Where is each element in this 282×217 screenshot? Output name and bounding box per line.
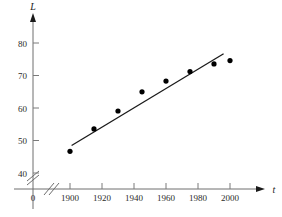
scatter-plot: 80 70 60 50 40 1900 1920 1940 1960 1980 … [0,0,282,217]
x-tick-label-1940: 1940 [125,193,144,203]
y-axis-arrow-icon [30,13,36,22]
x-axis-arrow-icon [256,186,265,192]
data-point [227,58,232,63]
x-tick-label-1960: 1960 [157,193,176,203]
data-point-group [67,58,232,154]
origin-label: 0 [31,193,36,203]
x-tick-label-2000: 2000 [221,193,240,203]
data-point [139,89,144,94]
data-point [211,61,216,66]
data-point [115,108,120,113]
y-axis-ticks [33,43,39,173]
y-tick-label-80: 80 [18,39,28,49]
y-tick-label-40: 40 [18,169,28,179]
x-tick-label-1920: 1920 [93,193,112,203]
data-point [187,69,192,74]
x-tick-label-1980: 1980 [189,193,208,203]
data-point [67,149,72,154]
x-axis-label: t [273,184,276,195]
chart-container: 80 70 60 50 40 1900 1920 1940 1960 1980 … [0,0,282,217]
fitted-trend-line [72,54,224,146]
x-axis-ticks [70,183,230,189]
y-tick-label-60: 60 [18,104,28,114]
data-point [91,126,96,131]
data-point [163,79,168,84]
y-axis-label: L [29,1,36,12]
x-tick-label-1900: 1900 [61,193,80,203]
y-tick-label-70: 70 [18,71,28,81]
y-tick-label-50: 50 [18,136,28,146]
